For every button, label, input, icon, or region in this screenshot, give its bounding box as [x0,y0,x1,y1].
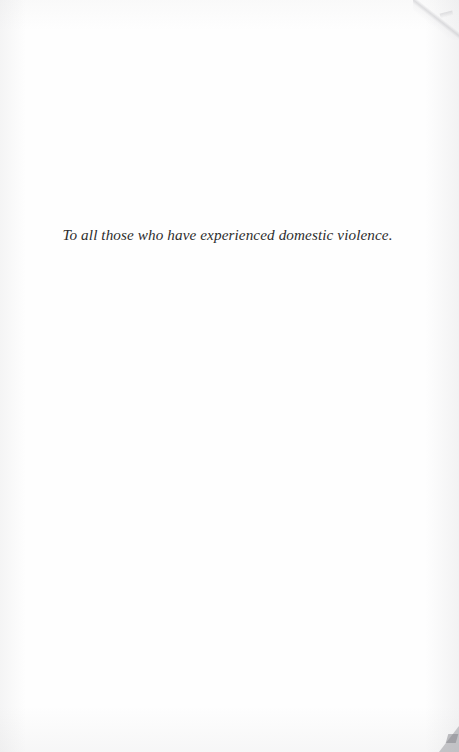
paper-edge-shading-right [425,0,459,752]
paper-edge-shading-top [0,0,459,30]
dedication-text: To all those who have experienced domest… [62,225,392,245]
dedication-page: To all those who have experienced domest… [0,0,459,752]
page-corner-fold-icon [413,0,459,40]
page-corner-shadow-icon [435,722,459,752]
paper-edge-shading-bottom [0,706,459,752]
dedication-block: To all those who have experienced domest… [0,225,459,245]
paper-edge-shading-left [0,0,26,752]
